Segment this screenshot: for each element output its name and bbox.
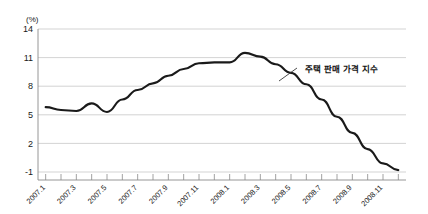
x-tick-label: 2008.9 [331, 183, 354, 206]
gridlines-group [38, 29, 406, 172]
chart-container: -12581114 2007.12007.32007.52007.72007.9… [0, 0, 428, 214]
x-tick-label: 2008.5 [270, 183, 293, 206]
x-tick-label: 2008.11 [359, 183, 384, 208]
x-tick-label: 2007.3 [55, 183, 78, 206]
x-tick-label: 2007.9 [147, 183, 170, 206]
y-tick-label: 8 [28, 81, 33, 91]
y-tick-label: 5 [28, 110, 33, 120]
x-tick-label: 2007.5 [86, 183, 109, 206]
y-tick-label: 11 [24, 53, 33, 63]
y-axis-group: -12581114 [23, 24, 38, 180]
x-tick-label: 2007.1 [24, 183, 47, 206]
x-tick-label: 2008.1 [208, 183, 231, 206]
x-tick-marks [46, 174, 399, 180]
x-tick-label: 2007.7 [116, 183, 139, 206]
x-tick-label: 2008.7 [300, 183, 323, 206]
y-tick-labels: -12581114 [23, 24, 33, 177]
y-axis-unit-label: (%) [26, 15, 39, 24]
y-tick-label: 14 [23, 24, 33, 34]
x-tick-label: 2008.3 [239, 183, 262, 206]
y-tick-label: -1 [25, 167, 33, 177]
y-tick-label: 2 [28, 139, 33, 149]
line-chart: -12581114 2007.12007.32007.52007.72007.9… [0, 0, 428, 214]
x-axis-group: 2007.12007.32007.52007.72007.92007.11200… [24, 174, 406, 208]
series-annotation-label: 주택 판매 가격 지수 [305, 64, 378, 74]
x-tick-label: 2007.11 [175, 183, 200, 208]
x-tick-labels: 2007.12007.32007.52007.72007.92007.11200… [24, 183, 384, 208]
